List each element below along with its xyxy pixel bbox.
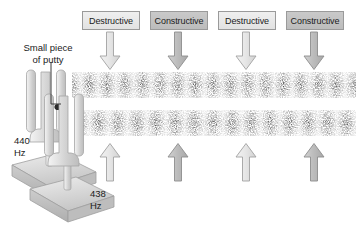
frequency-label-438: 438 Hz [90,188,106,212]
label-destructive-2: Destructive [218,11,276,30]
putty-annotation: Small piece of putty [8,42,88,66]
label-text: Constructive [291,16,340,26]
frequency-value-440: 440 [14,135,30,147]
up-arrow-constructive-2 [301,142,327,182]
beats-diagram: Destructive Constructive Destructive Con… [0,0,359,244]
up-arrow-destructive-2 [233,142,259,182]
label-text: Destructive [89,16,133,26]
label-destructive-1: Destructive [82,11,140,30]
frequency-value-438: 438 [90,188,106,200]
up-arrow-constructive-1 [165,142,191,182]
label-text: Destructive [225,16,269,26]
putty-line-1: Small piece [8,42,88,54]
down-arrow-constructive-2 [301,31,327,71]
label-text: Constructive [155,16,204,26]
down-arrow-constructive-1 [165,31,191,71]
label-constructive-2: Constructive [286,11,344,30]
label-constructive-1: Constructive [150,11,208,30]
frequency-unit-438: Hz [90,200,106,212]
down-arrow-destructive-2 [233,31,259,71]
putty-line-2: of putty [8,54,88,66]
putty-leader-line [48,62,72,108]
frequency-label-440: 440 Hz [14,135,30,159]
frequency-unit-440: Hz [14,147,30,159]
